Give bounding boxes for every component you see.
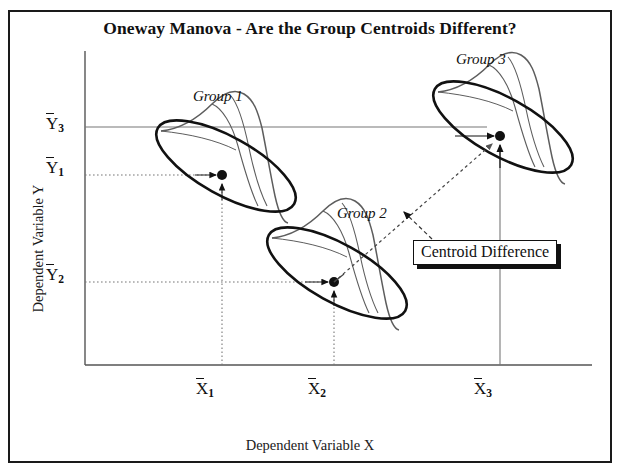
figure-canvas bbox=[0, 0, 624, 475]
y-tick-label-2: Y2 bbox=[46, 265, 64, 285]
group-2-label: Group 2 bbox=[337, 205, 387, 222]
y-tick-label-3: Y3 bbox=[46, 114, 64, 134]
group-3-centroid bbox=[495, 131, 505, 141]
x-axis-title: Dependent Variable X bbox=[8, 437, 612, 454]
group-3-label: Group 3 bbox=[456, 51, 506, 68]
group-3-distribution bbox=[421, 52, 586, 190]
figure-root: Oneway Manova - Are the Group Centroids … bbox=[0, 0, 624, 475]
group-1-label: Group 1 bbox=[193, 88, 243, 105]
y-axis-title: Dependent Variable Y bbox=[30, 149, 47, 349]
centroid-difference-callout: Centroid Difference bbox=[413, 240, 557, 265]
y-tick-label-1: Y1 bbox=[46, 158, 64, 178]
x-tick-label-1: X1 bbox=[196, 379, 214, 399]
x-tick-label-2: X2 bbox=[308, 379, 326, 399]
callout-leader-line bbox=[404, 212, 432, 239]
group-1-centroid bbox=[217, 170, 227, 180]
group-1-distribution bbox=[144, 91, 309, 229]
x-tick-label-3: X3 bbox=[474, 379, 492, 399]
